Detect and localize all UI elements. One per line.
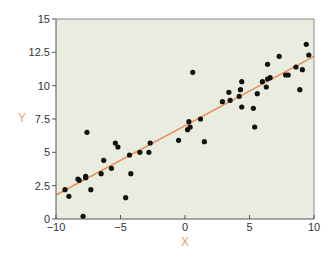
data-point (251, 106, 256, 111)
data-point (146, 150, 151, 155)
data-point (123, 195, 128, 200)
y-tick-label: 15 (38, 13, 50, 25)
data-point (260, 79, 265, 84)
data-point (84, 130, 89, 135)
data-point (239, 104, 244, 109)
data-point (109, 166, 114, 171)
data-point (268, 75, 273, 80)
data-point (88, 187, 93, 192)
data-point (238, 87, 243, 92)
data-point (198, 116, 203, 121)
data-point (286, 72, 291, 77)
data-point (176, 138, 181, 143)
y-tick-label: 7.5 (35, 113, 50, 125)
data-point (264, 84, 269, 89)
x-tick-label: 5 (246, 221, 252, 233)
plot-area (56, 19, 314, 219)
data-point (300, 67, 305, 72)
data-point (306, 52, 311, 57)
data-point (101, 158, 106, 163)
data-point (237, 94, 242, 99)
data-point (186, 119, 191, 124)
data-point (128, 171, 133, 176)
data-point (148, 140, 153, 145)
x-tick-label: −5 (114, 221, 127, 233)
y-tick-label: 5 (44, 146, 50, 158)
data-point (293, 64, 298, 69)
data-point (252, 124, 257, 129)
data-point (188, 124, 193, 129)
data-point (304, 42, 309, 47)
data-point (190, 70, 195, 75)
data-point (226, 90, 231, 95)
data-point (77, 178, 82, 183)
data-point (80, 214, 85, 219)
y-tick-label: 0 (44, 213, 50, 225)
data-point (202, 139, 207, 144)
data-point (228, 98, 233, 103)
data-point (239, 79, 244, 84)
data-point (66, 194, 71, 199)
y-axis-label: Y (18, 111, 26, 125)
y-tick-label: 10 (38, 80, 50, 92)
data-point (255, 91, 260, 96)
data-point (62, 187, 67, 192)
data-point (99, 171, 104, 176)
data-point (83, 175, 88, 180)
data-point (265, 62, 270, 67)
data-point (220, 99, 225, 104)
data-point (127, 152, 132, 157)
scatter-chart: −10−5051002.557.51012.515 X Y (0, 0, 334, 261)
data-point (115, 144, 120, 149)
y-tick-label: 2.5 (35, 180, 50, 192)
data-point (277, 54, 282, 59)
x-tick-label: 0 (182, 221, 188, 233)
x-axis-label: X (181, 235, 189, 249)
data-point (297, 87, 302, 92)
x-tick-label: 10 (308, 221, 320, 233)
y-tick-label: 12.5 (29, 46, 50, 58)
data-point (137, 150, 142, 155)
